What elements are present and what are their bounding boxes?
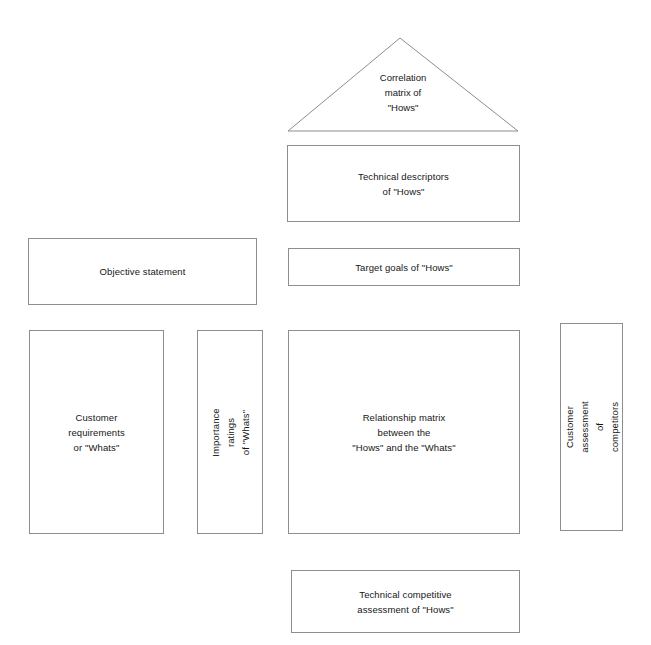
objective-statement-box: Objective statement — [28, 238, 257, 305]
technical-descriptors-box: Technical descriptors of "Hows" — [287, 145, 520, 222]
relationship-matrix-label: Relationship matrix between the "Hows" a… — [352, 410, 455, 455]
correlation-matrix-label: Correlation matrix of "Hows" — [285, 70, 521, 115]
technical-descriptors-label: Technical descriptors of "Hows" — [358, 169, 449, 199]
customer-requirements-label: Customer requirements or "Whats" — [68, 410, 125, 455]
relationship-matrix-box: Relationship matrix between the "Hows" a… — [288, 330, 520, 534]
target-goals-box: Target goals of "Hows" — [288, 248, 520, 286]
target-goals-label: Target goals of "Hows" — [355, 260, 453, 275]
customer-requirements-box: Customer requirements or "Whats" — [29, 330, 164, 534]
technical-competitive-assessment-box: Technical competitive assessment of "How… — [291, 570, 520, 633]
house-of-quality-diagram: Correlation matrix of "Hows" Technical d… — [0, 0, 651, 645]
customer-assessment-box: Customer assessment of competitors — [560, 323, 623, 531]
objective-statement-label: Objective statement — [100, 264, 186, 279]
importance-ratings-box: Importance ratings of "Whats" — [197, 330, 263, 534]
technical-competitive-assessment-label: Technical competitive assessment of "How… — [357, 587, 453, 617]
importance-ratings-label: Importance ratings of "Whats" — [208, 400, 253, 464]
customer-assessment-label: Customer assessment of competitors — [562, 397, 622, 458]
